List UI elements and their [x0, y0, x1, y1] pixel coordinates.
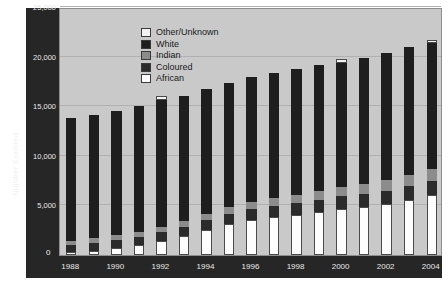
bar-segment	[336, 209, 346, 255]
gridline	[60, 6, 441, 7]
bar-segment	[156, 100, 166, 226]
bar	[134, 106, 144, 255]
legend-swatch-icon	[141, 74, 151, 83]
legend-item: Coloured	[141, 62, 219, 74]
y-tick-label: 15,000	[26, 103, 59, 111]
bar-segment	[404, 175, 414, 186]
bar	[404, 47, 414, 255]
bar-segment	[201, 230, 211, 255]
bar-segment	[404, 47, 414, 175]
bar-segment	[404, 186, 414, 200]
bar	[314, 65, 324, 255]
bar-segment	[134, 237, 144, 245]
bar-segment	[381, 204, 391, 255]
bar-segment	[291, 69, 301, 195]
y-tick-label: 20,000	[26, 54, 59, 62]
bar-segment	[336, 63, 346, 187]
legend: Other/UnknownWhiteIndianColouredAfrican	[141, 27, 219, 85]
bar	[336, 59, 346, 255]
bar	[359, 58, 369, 255]
bar-segment	[156, 232, 166, 241]
bar-segment	[156, 241, 166, 255]
bar-segment	[359, 207, 369, 255]
legend-label: Other/Unknown	[156, 28, 219, 37]
y-tick-label: 10,000	[26, 153, 59, 161]
x-tick-label: 1998	[287, 262, 305, 271]
bar	[201, 89, 211, 255]
legend-label: African	[156, 74, 184, 83]
y-tick-label: 5,000	[26, 202, 59, 210]
x-tick-label: 2000	[332, 262, 350, 271]
bar-segment	[314, 65, 324, 191]
bar-segment	[89, 243, 99, 250]
y-axis-title: Number Enrolled	[11, 133, 20, 196]
plot-area: Other/UnknownWhiteIndianColouredAfrican	[59, 8, 442, 256]
bar-segment	[66, 245, 76, 252]
bar-segment	[134, 106, 144, 231]
bar	[89, 115, 99, 255]
bar-segment	[291, 203, 301, 215]
bar-segment	[269, 198, 279, 206]
bar-segment	[246, 220, 256, 255]
bar-segment	[246, 209, 256, 220]
bar-segment	[381, 180, 391, 190]
bar-segment	[381, 53, 391, 180]
bar	[427, 40, 437, 255]
y-axis-zero-label: 0	[46, 248, 50, 257]
bar-segment	[404, 200, 414, 255]
legend-label: Indian	[156, 51, 181, 60]
bar-segment	[291, 195, 301, 203]
bar	[111, 111, 121, 255]
bar-segment	[314, 212, 324, 255]
bar-segment	[314, 200, 324, 212]
legend-item: Indian	[141, 50, 219, 62]
bar-segment	[66, 118, 76, 241]
bar-segment	[111, 240, 121, 248]
legend-label: Coloured	[156, 63, 193, 72]
bar-segment	[179, 96, 189, 220]
bar-segment	[134, 245, 144, 255]
bar-segment	[224, 83, 234, 207]
bar-segment	[291, 215, 301, 255]
x-tick-label: 2002	[377, 262, 395, 271]
y-tick-label: 25,000	[26, 4, 59, 12]
bar-segment	[336, 196, 346, 209]
x-tick-label: 1988	[61, 262, 79, 271]
bar-segment	[269, 206, 279, 217]
bar-segment	[359, 184, 369, 194]
x-tick-label: 1996	[242, 262, 260, 271]
legend-item: African	[141, 73, 219, 85]
bar-segment	[427, 181, 437, 196]
bar-segment	[427, 169, 437, 180]
legend-swatch-icon	[141, 51, 151, 60]
bar-segment	[314, 191, 324, 200]
bar-segment	[179, 227, 189, 236]
legend-swatch-icon	[141, 63, 151, 72]
bar-segment	[89, 115, 99, 238]
bar	[179, 96, 189, 255]
bar-segment	[427, 43, 437, 169]
bar-segment	[179, 236, 189, 255]
bar-segment	[269, 217, 279, 255]
bar-segment	[246, 77, 256, 201]
bar-segment	[224, 224, 234, 255]
x-tick-label: 1990	[106, 262, 124, 271]
legend-label: White	[156, 40, 179, 49]
bar-segment	[246, 202, 256, 209]
bar-segment	[336, 187, 346, 196]
bar-segment	[201, 89, 211, 213]
chart-figure: Number Enrolled 0 Other/UnknownWhiteIndi…	[0, 0, 448, 296]
bar	[224, 83, 234, 255]
x-tick-label: 2004	[422, 262, 440, 271]
bar	[156, 96, 166, 255]
legend-swatch-icon	[141, 40, 151, 49]
bar	[291, 69, 301, 255]
legend-item: White	[141, 39, 219, 51]
bar-segment	[111, 248, 121, 255]
bar-segment	[381, 191, 391, 205]
bar	[246, 77, 256, 255]
bar	[66, 118, 76, 255]
bar-segment	[201, 220, 211, 230]
bar-segment	[66, 252, 76, 255]
bar	[269, 73, 279, 256]
